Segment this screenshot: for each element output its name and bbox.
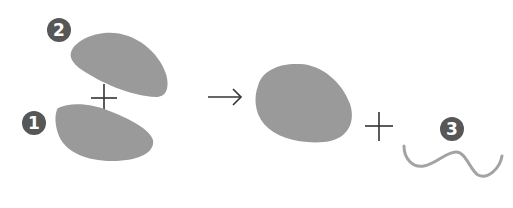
plus-right-icon <box>365 112 393 141</box>
badge-1-label: 1 <box>28 113 40 133</box>
wavy-strand <box>404 146 502 176</box>
subunit-2: 2 <box>47 18 168 97</box>
complex <box>256 64 352 142</box>
arrow-right-icon <box>208 89 241 105</box>
subunit-2-shape <box>71 33 168 97</box>
badge-3-label: 3 <box>446 119 458 139</box>
reaction-diagram: 2 1 3 <box>0 0 513 208</box>
badge-2-label: 2 <box>53 20 65 40</box>
byproduct: 3 <box>404 117 502 176</box>
complex-shape <box>256 64 352 142</box>
subunit-1-shape <box>55 104 153 161</box>
subunit-1: 1 <box>22 104 153 161</box>
